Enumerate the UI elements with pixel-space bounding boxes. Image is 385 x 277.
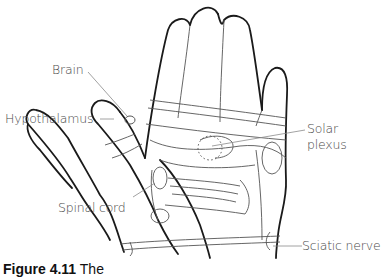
brain-leader-line	[88, 72, 127, 116]
figure-number: Figure 4.11	[3, 261, 76, 277]
caption-text: The	[80, 261, 104, 277]
label-brain: Brain	[52, 63, 83, 77]
label-sciatic-nerve: Sciatic nerve	[302, 239, 380, 253]
label-solar-plexus-line2: plexus	[307, 138, 347, 152]
label-solar-plexus-line1: Solar	[307, 122, 338, 136]
label-spinal-cord: Spinal cord	[58, 201, 126, 215]
label-hypothalamus: Hypothalamus	[5, 112, 93, 126]
figure-caption: Figure 4.11 The	[3, 261, 104, 277]
hand-outline	[26, 110, 124, 252]
